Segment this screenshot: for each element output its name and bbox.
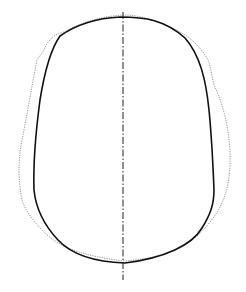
outline-diagram [0,0,246,292]
diagram-canvas [0,0,246,292]
